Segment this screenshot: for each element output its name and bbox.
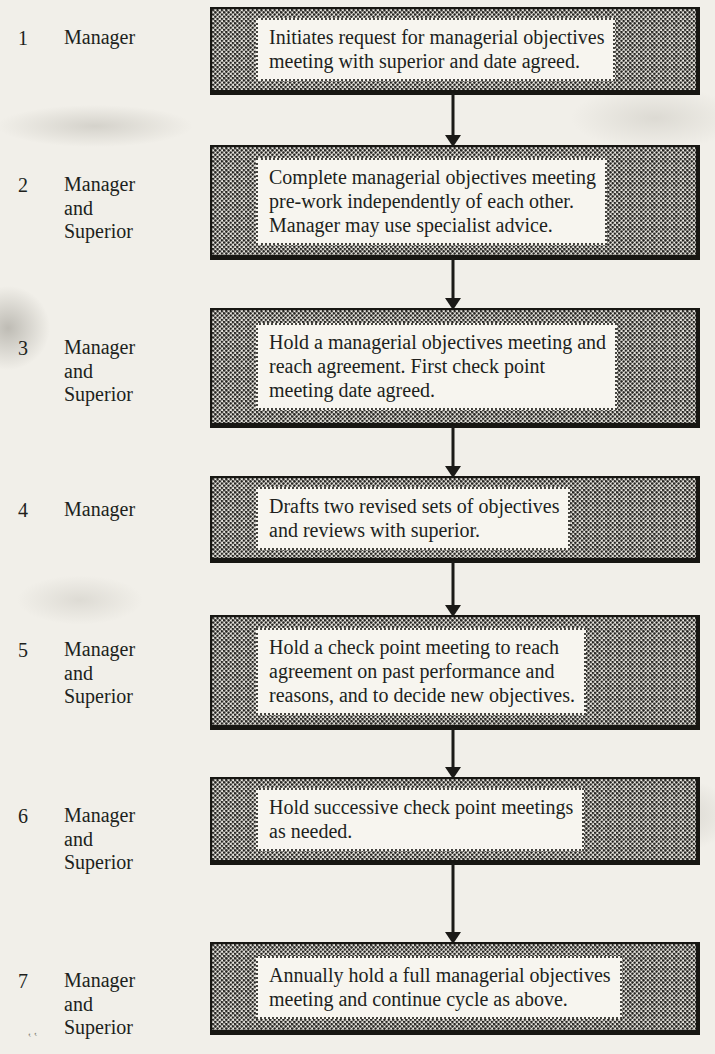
flow-box: Hold a check point meeting to reach agre…: [210, 615, 700, 730]
step-role-label: Manager and Superior: [64, 969, 194, 1040]
arrow-down-connector: [444, 93, 461, 147]
flow-box-text: Hold successive check point meetings as …: [256, 788, 584, 851]
step-role-label: Manager and Superior: [64, 336, 194, 407]
flowchart-managerial-objectives-cycle: 1 Manager Initiates request for manageri…: [0, 0, 715, 1054]
step-number: 6: [18, 804, 48, 828]
flow-box-text: Drafts two revised sets of objectives an…: [256, 487, 570, 550]
flow-box-text: Hold a managerial objectives meeting and…: [256, 323, 617, 410]
flow-box: Drafts two revised sets of objectives an…: [210, 476, 700, 563]
step-role-label: Manager: [64, 498, 194, 522]
arrow-down-connector: [444, 561, 461, 617]
arrow-down-connector: [444, 258, 461, 310]
arrow-down-connector: [444, 426, 461, 478]
flow-box-text: Hold a check point meeting to reach agre…: [256, 628, 586, 715]
step-number: 2: [18, 173, 48, 197]
flow-box: Hold successive check point meetings as …: [210, 777, 700, 865]
arrow-down-connector: [444, 863, 461, 944]
scan-artifact-mark: ‛‛: [27, 1029, 41, 1046]
flow-box: Annually hold a full managerial objectiv…: [210, 942, 700, 1035]
step-role-label: Manager and Superior: [64, 173, 194, 244]
step-number: 3: [18, 336, 48, 360]
flow-box-text: Initiates request for managerial objecti…: [256, 18, 615, 81]
step-number: 4: [18, 498, 48, 522]
flow-box: Complete managerial objectives meeting p…: [210, 145, 700, 260]
flow-box-text: Annually hold a full managerial objectiv…: [256, 956, 622, 1019]
step-role-label: Manager and Superior: [64, 638, 194, 709]
step-number: 7: [18, 969, 48, 993]
step-number: 5: [18, 638, 48, 662]
arrow-down-connector: [444, 728, 461, 779]
step-number: 1: [18, 26, 48, 50]
step-role-label: Manager: [64, 26, 194, 50]
flow-box: Hold a managerial objectives meeting and…: [210, 308, 700, 428]
step-role-label: Manager and Superior: [64, 804, 194, 875]
flow-box-text: Complete managerial objectives meeting p…: [256, 158, 607, 245]
flow-box: Initiates request for managerial objecti…: [210, 7, 700, 95]
